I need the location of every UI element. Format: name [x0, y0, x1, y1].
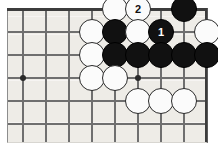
- move-number-label: 2: [135, 4, 141, 15]
- white-stone: [102, 65, 128, 91]
- black-stone: [194, 42, 218, 68]
- star-point-left-icon: [20, 75, 26, 81]
- white-stone: [171, 88, 197, 114]
- star-point-right-icon: [135, 75, 141, 81]
- move-number-label: 1: [158, 27, 164, 38]
- go-diagram: 21: [0, 0, 218, 152]
